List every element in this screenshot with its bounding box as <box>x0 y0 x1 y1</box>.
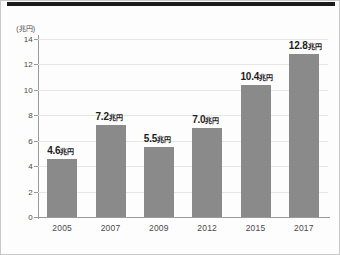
gridline <box>38 90 328 91</box>
y-axis-tick-mark <box>34 64 38 65</box>
bar-value-unit: 兆円 <box>205 117 219 124</box>
y-axis-tick-mark <box>34 115 38 116</box>
bar-group: 10.4兆円 <box>241 39 271 217</box>
bar-value-unit: 兆円 <box>60 148 74 155</box>
y-axis-tick-mark <box>34 217 38 218</box>
bar-wrapper: 4.6兆円 <box>47 159 77 217</box>
bar-value-number: 4.6 <box>47 145 60 156</box>
bar-group: 7.2兆円 <box>96 39 126 217</box>
chart-figure: (兆円) 02468101214 4.6兆円7.2兆円5.5兆円7.0兆円10.… <box>0 0 340 255</box>
gridline <box>38 39 328 40</box>
bar <box>289 54 319 217</box>
bar-wrapper: 5.5兆円 <box>144 147 174 217</box>
bar-value-number: 7.2 <box>96 111 109 122</box>
y-axis-tick-mark <box>34 192 38 193</box>
bar <box>96 125 126 217</box>
bar-wrapper: 12.8兆円 <box>289 54 319 217</box>
bar-value-number: 10.4 <box>241 71 260 82</box>
y-axis-tick-label: 12 <box>24 60 33 69</box>
x-axis-tick-label: 2015 <box>231 223 281 233</box>
gridline <box>38 141 328 142</box>
bar-value-unit: 兆円 <box>308 43 322 50</box>
y-axis-tick-mark <box>34 141 38 142</box>
bar-wrapper: 7.0兆円 <box>192 128 222 217</box>
bar-group: 4.6兆円 <box>47 39 77 217</box>
bar-value-label: 12.8兆円 <box>289 40 322 51</box>
y-axis-tick-label: 4 <box>28 162 33 171</box>
x-axis-tick-label: 2017 <box>279 223 329 233</box>
gridline <box>38 192 328 193</box>
y-axis-tick-mark <box>34 90 38 91</box>
x-axis-line <box>34 217 330 218</box>
bar-group: 7.0兆円 <box>192 39 222 217</box>
gridline <box>38 115 328 116</box>
bar-value-number: 5.5 <box>144 133 157 144</box>
gridline <box>38 64 328 65</box>
bar-value-unit: 兆円 <box>157 136 171 143</box>
y-axis-tick-mark <box>34 39 38 40</box>
bar-value-label: 7.0兆円 <box>192 114 219 125</box>
y-axis-tick-label: 0 <box>28 213 33 222</box>
x-axis-tick-label: 2005 <box>37 223 87 233</box>
bar-group: 12.8兆円 <box>289 39 319 217</box>
bar-group: 5.5兆円 <box>144 39 174 217</box>
y-axis-tick-mark <box>34 166 38 167</box>
y-axis-tick-label: 10 <box>24 85 33 94</box>
x-axis-tick-label: 2012 <box>182 223 232 233</box>
bar-wrapper: 10.4兆円 <box>241 85 271 217</box>
y-axis-tick-label: 2 <box>28 187 33 196</box>
bar-value-number: 12.8 <box>289 40 308 51</box>
bar-value-label: 5.5兆円 <box>144 133 171 144</box>
bar-value-number: 7.0 <box>192 114 205 125</box>
bar-value-label: 4.6兆円 <box>47 145 74 156</box>
y-axis-tick-label: 14 <box>24 35 33 44</box>
y-axis-tick-label: 8 <box>28 111 33 120</box>
bar-value-label: 10.4兆円 <box>241 71 274 82</box>
bar <box>192 128 222 217</box>
bar <box>144 147 174 217</box>
y-axis-tick-label: 6 <box>28 136 33 145</box>
gridline <box>38 166 328 167</box>
plot-area: 4.6兆円7.2兆円5.5兆円7.0兆円10.4兆円12.8兆円 <box>38 39 328 217</box>
bar <box>241 85 271 217</box>
top-rule-divider <box>7 2 335 6</box>
x-axis-tick-label: 2009 <box>134 223 184 233</box>
y-axis-tick-labels: 02468101214 <box>1 1 33 255</box>
bar-wrapper: 7.2兆円 <box>96 125 126 217</box>
x-axis-tick-label: 2007 <box>86 223 136 233</box>
bar-value-unit: 兆円 <box>109 114 123 121</box>
bar-value-label: 7.2兆円 <box>96 111 123 122</box>
bar <box>47 159 77 217</box>
bar-value-unit: 兆円 <box>259 74 273 81</box>
